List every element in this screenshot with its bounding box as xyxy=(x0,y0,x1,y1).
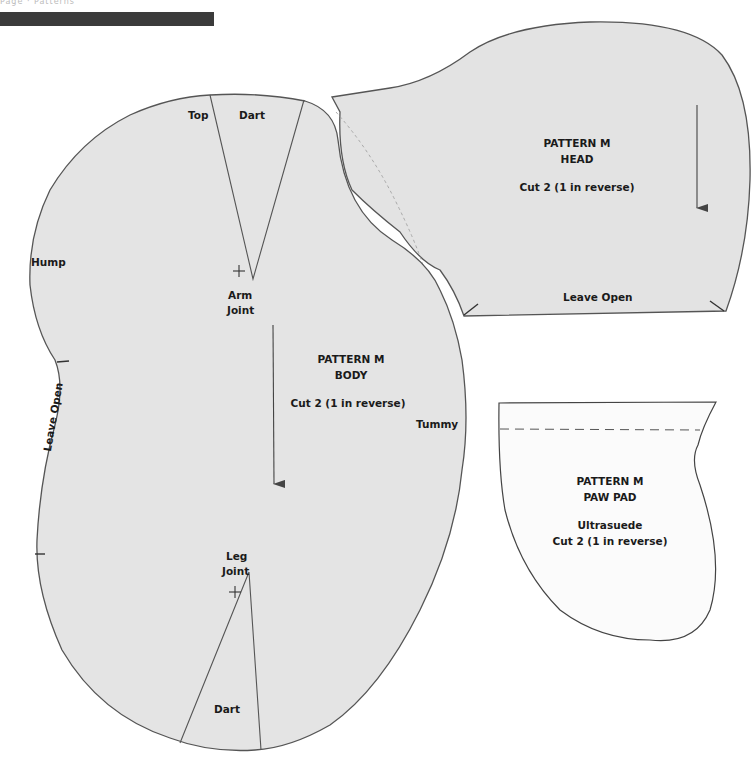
leave-open-notch-top xyxy=(57,361,69,362)
paw-pad-material: Ultrasuede xyxy=(550,517,670,533)
arm-joint-label-line2: Joint xyxy=(227,302,254,318)
body-pattern-title: PATTERN M xyxy=(296,351,406,367)
hump-label: Hump xyxy=(31,254,66,270)
top-label: Top xyxy=(188,107,209,123)
bottom-dart-label: Dart xyxy=(214,701,240,717)
paw-pad-pattern-label: PATTERN M PAW PAD Ultrasuede Cut 2 (1 in… xyxy=(550,473,670,549)
head-leave-open-label: Leave Open xyxy=(563,289,633,305)
arm-joint-label-line1: Arm xyxy=(228,287,252,303)
body-pattern-label: PATTERN M BODY Cut 2 (1 in reverse) xyxy=(296,351,406,411)
body-pattern-name: BODY xyxy=(296,367,406,383)
head-pattern-name: HEAD xyxy=(517,151,637,167)
top-dart-label: Dart xyxy=(239,107,265,123)
tummy-label: Tummy xyxy=(416,416,458,432)
head-pattern-label: PATTERN M HEAD Cut 2 (1 in reverse) xyxy=(517,135,637,195)
leg-joint-label-line1: Leg xyxy=(226,548,247,564)
head-pattern-title: PATTERN M xyxy=(517,135,637,151)
paw-pad-pattern-name: PAW PAD xyxy=(550,489,670,505)
leg-joint-label-line2: Joint xyxy=(222,563,249,579)
paw-pad-cut-instruction: Cut 2 (1 in reverse) xyxy=(550,533,670,549)
head-cut-instruction: Cut 2 (1 in reverse) xyxy=(517,179,637,195)
paw-pad-pattern-title: PATTERN M xyxy=(550,473,670,489)
body-cut-instruction: Cut 2 (1 in reverse) xyxy=(290,395,406,411)
